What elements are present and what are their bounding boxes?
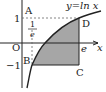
tick-y-one: 1 — [14, 13, 20, 24]
ln-area-diagram: y=ln x x O A B C D 1 −1 e 1 e — [0, 0, 106, 92]
point-a-label: A — [24, 5, 33, 16]
origin-label: O — [12, 42, 20, 53]
point-c-label: C — [76, 67, 84, 78]
tick-inv-e-numerator: 1 — [30, 20, 35, 29]
shaded-region — [32, 18, 79, 65]
point-b-label: B — [23, 55, 30, 66]
x-axis-label: x — [97, 42, 103, 53]
tick-y-neg-one: −1 — [6, 60, 21, 71]
tick-inv-e-denominator: e — [30, 30, 35, 39]
curve-label: y=ln x — [65, 0, 99, 11]
point-d-label: D — [82, 18, 90, 29]
tick-x-e: e — [81, 43, 87, 54]
